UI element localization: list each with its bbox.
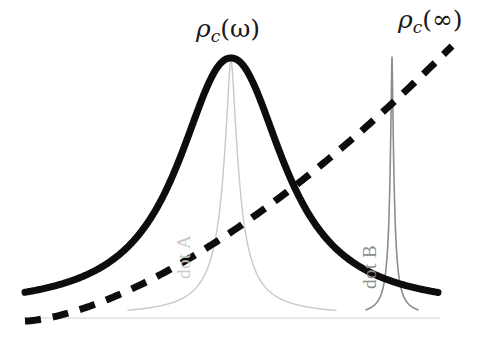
label-dot-b: dot B — [359, 245, 381, 289]
label-rho-c-omega: ρc(ω) — [196, 14, 260, 46]
label-dot-a: dot A — [173, 235, 195, 279]
resonance-figure: ρc(ω) ρc(∞) dot A dot B — [0, 0, 480, 340]
rho-glyph: ρ — [398, 5, 413, 34]
label-rho-c-infinity: ρc(∞) — [398, 5, 463, 37]
plot-canvas — [0, 0, 480, 340]
rho-subscript-c: c — [211, 26, 221, 46]
rho-subscript-c: c — [413, 17, 423, 37]
rho-argument-omega: (ω) — [220, 14, 260, 43]
rho-glyph: ρ — [196, 14, 211, 43]
rho-argument-infinity: (∞) — [422, 5, 462, 34]
